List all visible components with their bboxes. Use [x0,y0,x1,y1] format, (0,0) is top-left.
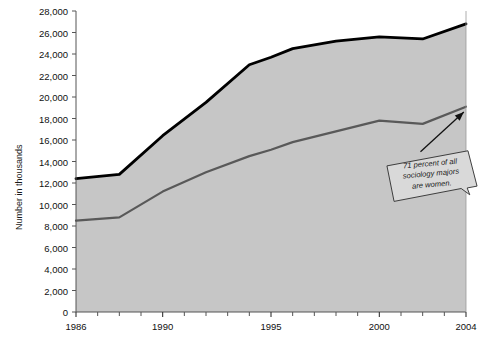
annotation-callout: 71 percent of all sociology majors are w… [384,152,476,196]
sociology-majors-area-chart: Number in thousands 02,0004,0006,0008,00… [0,0,489,339]
